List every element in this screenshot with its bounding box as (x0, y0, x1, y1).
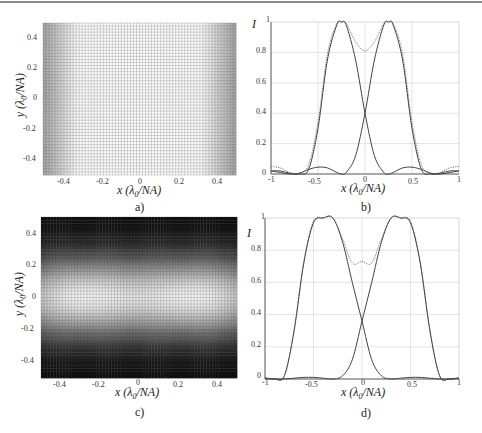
x-axis-label: x (λ0/NA) (117, 183, 161, 199)
caption-c: c) (135, 405, 144, 420)
xtick: -0.2 (96, 177, 109, 186)
ytick: 0.4 (256, 107, 266, 116)
caption-b: b) (361, 200, 371, 215)
panel-c: 0.4 0.2 0 -0.2 -0.4 -0.4 -0.2 0 0.2 0.4 … (0, 216, 241, 433)
y-axis-label: y (λ0/NA) (13, 60, 29, 130)
ytick: 0.4 (27, 33, 37, 42)
ytick: 0.4 (26, 229, 36, 238)
xtick: -0.5 (305, 380, 318, 389)
xtick: 0.2 (174, 177, 184, 186)
ytick: 0.6 (251, 276, 261, 285)
heatmap-a (43, 23, 236, 175)
plot-d (265, 218, 459, 379)
ytick: 0 (262, 168, 266, 177)
xtick: -1 (268, 175, 275, 184)
panel-a: 0.4 0.2 0 -0.2 -0.4 -0.4 -0.2 0 0.2 0.4 … (0, 0, 241, 216)
caption-d: d) (361, 406, 371, 421)
ytick: 0.4 (251, 308, 261, 317)
ytick: -0.4 (23, 154, 36, 163)
xtick: -0.4 (53, 380, 66, 389)
ytick: 0.2 (256, 138, 266, 147)
plot-b (271, 22, 459, 174)
x-axis-label: x (λ0/NA) (341, 385, 385, 401)
x-axis-label: x (λ0/NA) (115, 385, 159, 401)
xtick: 0.5 (407, 380, 417, 389)
ytick: 0 (32, 292, 36, 301)
xtick: 1 (457, 175, 461, 184)
xtick: -1 (262, 378, 269, 387)
xtick: 0.2 (173, 380, 183, 389)
y-axis-label: I (247, 226, 251, 241)
ytick: 0.6 (256, 77, 266, 86)
ytick: 0 (257, 371, 261, 380)
panel-d: I 1 0.8 0.6 0.4 0.2 0 -1 -0.5 0 0.5 1 x … (241, 216, 482, 433)
xtick: 0.5 (408, 177, 418, 186)
ytick: 0 (33, 93, 37, 102)
y-axis-label: y (λ0/NA) (12, 259, 28, 329)
caption-a: a) (135, 200, 144, 215)
ytick: 0.8 (251, 244, 261, 253)
xtick: 0.4 (212, 380, 222, 389)
ytick: -0.4 (21, 356, 34, 365)
y-axis-label: I (252, 17, 256, 32)
x-axis-label: x (λ0/NA) (341, 181, 385, 197)
xtick: 1 (457, 378, 461, 387)
xtick: -0.2 (92, 380, 105, 389)
xtick: -0.5 (308, 177, 321, 186)
ytick: 1 (261, 212, 265, 221)
heatmap-c (41, 217, 237, 378)
panel-b: I 1 0.8 0.6 0.4 0.2 0 -1 -0.5 0 0.5 1 x … (241, 0, 482, 216)
ytick: 0.2 (251, 340, 261, 349)
ytick: 0.8 (256, 46, 266, 55)
xtick: -0.4 (57, 177, 70, 186)
ytick: 1 (266, 15, 270, 24)
xtick: 0.4 (212, 177, 222, 186)
